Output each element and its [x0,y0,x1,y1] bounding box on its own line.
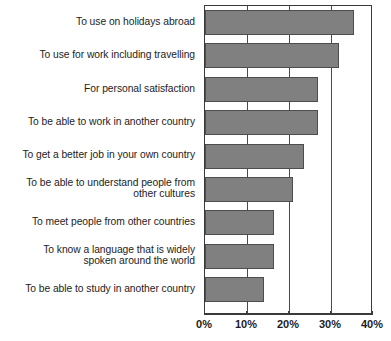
x-tick-mark [288,311,289,315]
category-label: To be able to work in another country [28,116,195,128]
x-tick-label: 30% [319,318,341,330]
bar [205,244,274,269]
bar [205,110,318,135]
plot-area [204,5,372,314]
x-tick-label: 20% [277,318,299,330]
category-label: To use on holidays abroad [76,16,195,28]
category-label: To be able to study in another country [25,283,195,295]
bar [205,144,304,169]
x-tick-label: 40% [361,318,383,330]
x-tick-mark [330,311,331,315]
x-axis: 0%10%20%30%40% [204,314,372,341]
bar [205,43,339,68]
category-label-column: To use on holidays abroadTo use for work… [0,0,200,341]
bar [205,77,318,102]
bar [205,177,293,202]
category-label: To use for work including travelling [39,49,195,61]
bar [205,10,354,35]
category-label: To know a language that is widely spoken… [43,244,195,267]
x-tick-mark [204,311,205,315]
bar-chart: To use on holidays abroadTo use for work… [0,0,391,341]
x-tick-mark [372,311,373,315]
x-tick-mark [246,311,247,315]
x-tick-label: 10% [235,318,257,330]
category-label: For personal satisfaction [84,83,195,95]
x-tick-label: 0% [196,318,212,330]
bar [205,277,264,302]
category-label: To get a better job in your own country [22,149,195,161]
category-label: To meet people from other countries [32,216,195,228]
bar [205,210,274,235]
category-label: To be able to understand people from oth… [26,177,195,200]
